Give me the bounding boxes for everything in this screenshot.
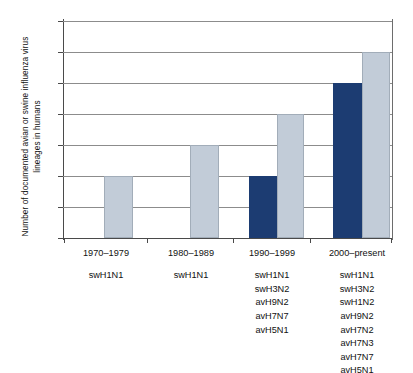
category-strains-1970-1979: swH1N1 [62, 269, 150, 283]
category-period-1990-1999: 1990–1999 [228, 249, 316, 258]
x-tick-mark-3 [310, 238, 311, 243]
category-block-1970-1979: 1970–1979 swH1N1 [62, 249, 150, 283]
bar-1980-1989-light [190, 145, 219, 238]
category-block-1990-1999: 1990–1999 swH1N1 swH3N2 avH9N2 avH7N7 av… [228, 249, 316, 337]
x-tick-mark-2 [233, 238, 234, 243]
x-axis-line [63, 238, 393, 239]
gridline-14 [63, 21, 392, 22]
bar-1990-1999-dark [249, 176, 277, 238]
category-block-2000-present: 2000–present swH1N1 swH3N2 swH1N2 avH9N2… [310, 249, 404, 373]
x-tick-mark-0 [64, 238, 65, 243]
plot-area [63, 21, 392, 238]
bar-1970-1979-light [104, 176, 133, 238]
category-period-1970-1979: 1970–1979 [62, 249, 150, 258]
bar-2000-present-dark [333, 83, 362, 238]
bar-1990-1999-light [277, 114, 304, 238]
bar-2000-present-light [362, 52, 390, 238]
plot-right-border [392, 19, 393, 240]
category-period-2000-present: 2000–present [310, 249, 404, 258]
bar-chart-figure: Number of documented avian or swine infl… [0, 0, 413, 373]
category-period-1980-1989: 1980–1989 [147, 249, 235, 258]
category-strains-1990-1999: swH1N1 swH3N2 avH9N2 avH7N7 avH5N1 [228, 269, 316, 337]
x-tick-mark-1 [147, 238, 148, 243]
y-axis-title: Number of documented avian or swine infl… [20, 22, 43, 252]
category-block-1980-1989: 1980–1989 swH1N1 [147, 249, 235, 283]
gridline-12 [63, 52, 392, 53]
category-strains-2000-present: swH1N1 swH3N2 swH1N2 avH9N2 avH7N2 avH7N… [310, 269, 404, 373]
category-strains-1980-1989: swH1N1 [147, 269, 235, 283]
x-tick-mark-4 [391, 238, 392, 243]
